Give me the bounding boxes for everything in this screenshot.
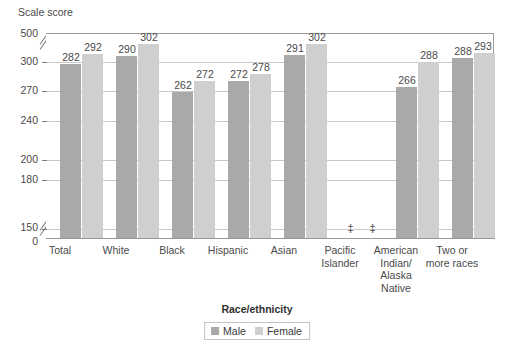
bar-hispanic-male[interactable] xyxy=(228,81,249,238)
bar-total-female[interactable] xyxy=(82,54,103,238)
legend-item-female[interactable]: Female xyxy=(255,325,302,337)
legend-swatch-male-icon xyxy=(211,327,219,335)
y-tick-label-150: 150 xyxy=(8,222,38,232)
bar-value-total-female: 292 xyxy=(76,42,110,53)
suppressed-marker-pacific-islander-female: ‡ xyxy=(362,222,383,234)
x-category-line: Native xyxy=(359,282,433,295)
legend-item-male[interactable]: Male xyxy=(211,325,246,337)
y-tick-200 xyxy=(42,160,47,161)
y-tick-label-240: 240 xyxy=(8,115,38,125)
x-category-label-two-or-more-races: Two or more races xyxy=(415,244,489,269)
y-tick-label-300: 300 xyxy=(8,56,38,66)
x-axis-line xyxy=(46,238,495,239)
y-tick-label-500: 500 xyxy=(8,28,38,38)
x-category-line: Two or xyxy=(415,244,489,257)
bar-group-asian: 291 302 xyxy=(284,34,328,238)
legend-swatch-female-icon xyxy=(255,327,263,335)
bar-two-or-more-male[interactable] xyxy=(452,58,473,238)
bar-value-asian-female: 302 xyxy=(300,32,334,43)
y-tick-180 xyxy=(42,180,47,181)
y-tick-270 xyxy=(42,91,47,92)
bar-two-or-more-female[interactable] xyxy=(474,53,495,238)
y-tick-label-200: 200 xyxy=(8,154,38,164)
bar-value-asian-male: 291 xyxy=(278,43,312,54)
bar-value-black-female: 272 xyxy=(188,69,222,80)
y-tick-300 xyxy=(42,62,47,63)
bar-chart: Scale score 500 300 270 240 200 180 150 … xyxy=(0,0,514,350)
bar-asian-female[interactable] xyxy=(306,44,327,238)
bar-group-pacific-islander: ‡ ‡ xyxy=(340,34,384,238)
bar-total-male[interactable] xyxy=(60,64,81,238)
bar-group-total: 282 292 xyxy=(60,34,104,238)
y-tick-label-180: 180 xyxy=(8,174,38,184)
bar-hispanic-female[interactable] xyxy=(250,74,271,238)
x-category-line: Alaska xyxy=(359,269,433,282)
bar-white-female[interactable] xyxy=(138,44,159,238)
y-tick-label-270: 270 xyxy=(8,85,38,95)
y-tick-150 xyxy=(42,229,47,230)
bar-group-two-or-more-races: 288 293 xyxy=(452,34,496,238)
bar-value-black-male: 262 xyxy=(166,80,200,91)
bar-black-male[interactable] xyxy=(172,92,193,238)
y-tick-240 xyxy=(42,121,47,122)
y-axis-title: Scale score xyxy=(18,6,73,18)
bar-value-american-indian-male: 266 xyxy=(390,75,424,86)
plot-area: 282 292 290 302 262 272 272 278 xyxy=(46,33,494,238)
legend-label-male: Male xyxy=(223,325,246,337)
bar-value-two-or-more-female: 293 xyxy=(466,41,500,52)
bar-american-indian-female[interactable] xyxy=(418,62,439,238)
bar-value-white-male: 290 xyxy=(110,44,144,55)
bar-american-indian-male[interactable] xyxy=(396,87,417,238)
bar-asian-male[interactable] xyxy=(284,55,305,238)
legend-label-female: Female xyxy=(267,325,302,337)
bar-value-total-male: 282 xyxy=(54,52,88,63)
bar-white-male[interactable] xyxy=(116,56,137,238)
suppressed-marker-pacific-islander-male: ‡ xyxy=(340,222,361,234)
bar-value-american-indian-female: 288 xyxy=(412,50,446,61)
bar-group-hispanic: 272 278 xyxy=(228,34,272,238)
x-category-line: more races xyxy=(415,257,489,270)
bar-black-female[interactable] xyxy=(194,81,215,238)
bar-group-american-indian-alaska-native: 266 288 xyxy=(396,34,440,238)
bar-group-black: 262 272 xyxy=(172,34,216,238)
x-axis-title: Race/ethnicity xyxy=(0,303,514,315)
chart-legend: Male Female xyxy=(204,322,310,340)
bar-value-white-female: 302 xyxy=(132,32,166,43)
bar-value-hispanic-female: 278 xyxy=(244,62,278,73)
bar-group-white: 290 302 xyxy=(116,34,160,238)
